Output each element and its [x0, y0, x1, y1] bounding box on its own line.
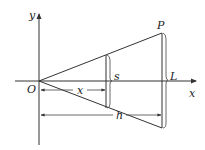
x-axis-label: x — [189, 87, 196, 100]
y-axis-label: y — [28, 9, 36, 22]
s-label: s — [114, 70, 120, 83]
cone-cross-section-diagram: y x O P s L x h — [0, 0, 205, 150]
origin-label: O — [27, 83, 36, 96]
l-label: L — [169, 70, 177, 83]
lower-edge-line — [39, 81, 162, 128]
h-length-label: h — [116, 109, 123, 122]
upper-edge-line — [39, 33, 162, 81]
point-p-label: P — [156, 19, 165, 32]
x-distance-label: x — [77, 84, 84, 97]
